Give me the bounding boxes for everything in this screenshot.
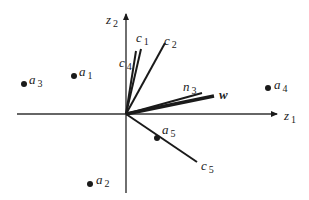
axis-label-z1: z1 [283,108,296,125]
diagram-canvas: z1z2 c1c2c4n3wc5 a1a2a3a4a5 [0,0,309,200]
vector-label-c2: c2 [164,33,177,50]
points: a1a2a3a4a5 [21,64,288,189]
point-label-a2: a2 [96,172,110,189]
point-a1 [71,73,77,79]
vectors: c1c2c4n3wc5 [119,30,228,175]
point-a3 [21,81,27,87]
point-a4 [265,85,271,91]
vector-label-c5: c5 [201,158,214,175]
axes: z1z2 [17,12,296,193]
vector-diagram: z1z2 c1c2c4n3wc5 a1a2a3a4a5 [0,0,309,200]
point-a2 [87,181,93,187]
point-a5 [154,135,160,141]
axis-label-z2: z2 [105,12,118,29]
point-label-a3: a3 [29,72,43,89]
vector-w [126,96,214,114]
point-label-a4: a4 [274,77,288,94]
vector-label-w: w [219,87,228,102]
point-label-a5: a5 [162,122,176,139]
vector-label-n3: n3 [183,79,197,96]
vector-label-c1: c1 [136,30,149,47]
point-label-a1: a1 [79,64,93,81]
